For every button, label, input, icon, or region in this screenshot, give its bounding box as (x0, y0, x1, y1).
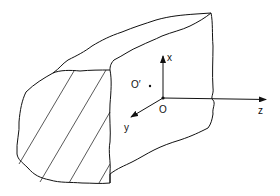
top-surface-outline (53, 13, 211, 73)
point-o-prime-dot (149, 85, 151, 87)
point-o-prime-label: O′ (131, 79, 141, 90)
z-axis-label: z (258, 105, 263, 116)
y-axis-label: y (124, 122, 129, 133)
section-face-outline (17, 70, 111, 183)
x-axis-label: x (167, 52, 172, 63)
origin-label: O (159, 104, 167, 115)
coordinate-axes (131, 56, 266, 117)
section-hatching (19, 70, 110, 183)
origin-dot (161, 96, 164, 99)
solid-body-diagram: x z y O O′ (0, 0, 280, 196)
z-axis (163, 98, 266, 100)
